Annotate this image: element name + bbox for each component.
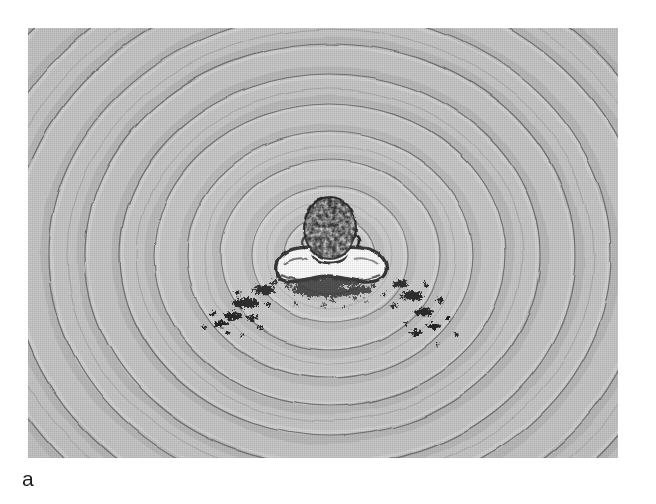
panel-label-a: a <box>22 466 34 492</box>
splash-left <box>202 279 277 338</box>
figure-container: a <box>0 0 656 504</box>
photograph-plate <box>28 28 618 458</box>
swimmer-figure-group <box>28 28 618 458</box>
splash-right <box>382 280 458 345</box>
